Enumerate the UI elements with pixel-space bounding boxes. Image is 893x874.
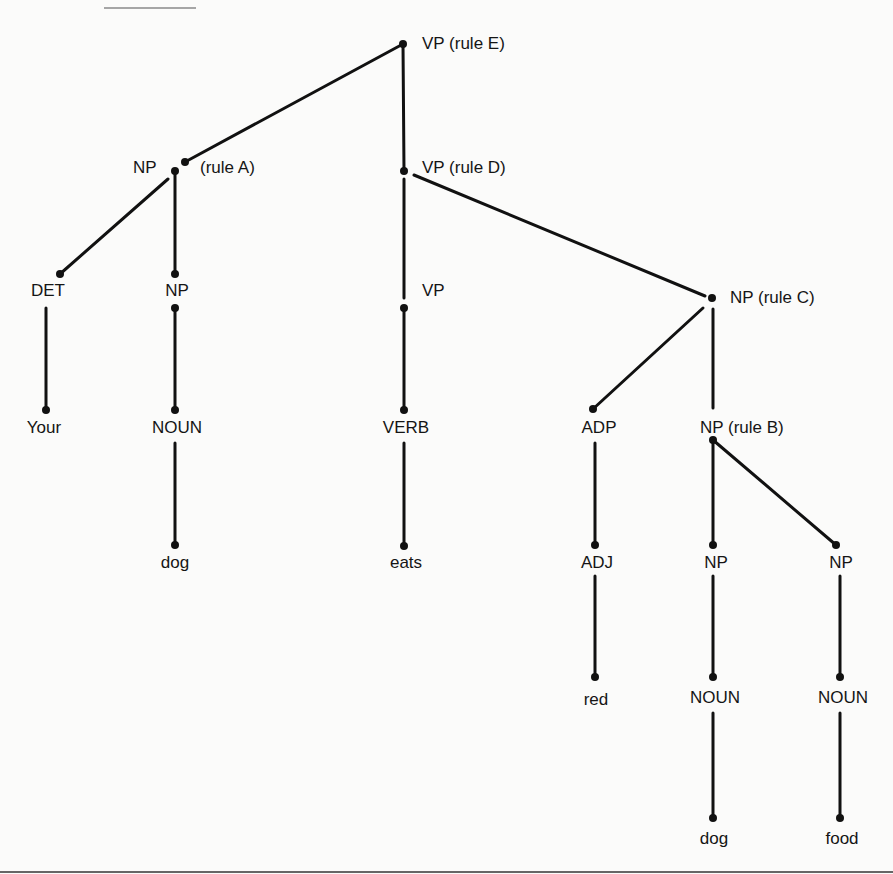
- node-label-np-rule-b: NP (rule B): [700, 418, 784, 438]
- node-dot-np2: [709, 541, 717, 549]
- node-dot-det: [56, 270, 64, 278]
- node-dot-adj: [591, 541, 599, 549]
- node-dot-noun2: [709, 673, 717, 681]
- node-dot-food: [836, 814, 844, 822]
- node-label-np-rule-a: NP: [133, 158, 157, 178]
- edge-vpd-npc: [414, 175, 705, 296]
- node-dot-npa-rule: [181, 158, 189, 166]
- node-label-adj: ADJ: [581, 553, 613, 573]
- node-label-vp: VP: [422, 281, 445, 301]
- node-dot-npa: [171, 167, 179, 175]
- node-dot-np1-top: [171, 270, 179, 278]
- node-label-noun: NOUN: [152, 418, 202, 438]
- node-label-verb: VERB: [383, 418, 429, 438]
- node-dot-vpd: [400, 167, 408, 175]
- node-dot-dog2: [709, 814, 717, 822]
- node-label-vp-rule-d: VP (rule D): [422, 158, 506, 178]
- node-label-np-3: NP: [829, 553, 853, 573]
- node-dot-npc: [708, 294, 716, 302]
- node-dot-adp: [589, 405, 597, 413]
- node-label-noun-3: NOUN: [818, 688, 868, 708]
- node-label-np-rule-c: NP (rule C): [730, 288, 815, 308]
- node-label-noun-2: NOUN: [690, 688, 740, 708]
- node-dot-vpe: [399, 40, 407, 48]
- node-dot-eats: [400, 542, 408, 550]
- edge-vpe-npa: [185, 44, 403, 162]
- node-label-rule-a: (rule A): [200, 158, 255, 178]
- edge-npa-det: [60, 179, 168, 274]
- node-label-np-2: NP: [704, 553, 728, 573]
- word-red: red: [584, 690, 609, 710]
- node-label-det: DET: [31, 281, 65, 301]
- word-dog-2: dog: [700, 829, 728, 849]
- edge-vpe-vpd: [403, 44, 404, 171]
- word-dog-1: dog: [161, 553, 189, 573]
- word-your: Your: [27, 418, 61, 438]
- node-dot-vp1: [400, 304, 408, 312]
- word-eats: eats: [390, 553, 422, 573]
- node-label-vp-rule-e: VP (rule E): [422, 34, 505, 54]
- edge-npb-np3: [713, 440, 836, 545]
- node-dot-your: [42, 406, 50, 414]
- node-dot-red: [591, 673, 599, 681]
- word-food: food: [825, 829, 858, 849]
- node-dot-dog1: [171, 541, 179, 549]
- node-label-np: NP: [165, 281, 189, 301]
- node-dot-verb: [400, 406, 408, 414]
- node-label-adp: ADP: [582, 418, 617, 438]
- node-dot-noun1: [171, 406, 179, 414]
- node-dot-np1-bottom: [171, 304, 179, 312]
- node-dot-np3: [832, 541, 840, 549]
- node-dot-noun3: [836, 673, 844, 681]
- edge-npc-adp: [593, 308, 703, 409]
